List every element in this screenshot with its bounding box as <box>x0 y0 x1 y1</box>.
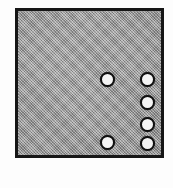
hole-4 <box>140 117 155 132</box>
hole-1 <box>100 72 115 87</box>
hole-5 <box>140 136 155 151</box>
hole-2 <box>140 72 155 87</box>
hole-3 <box>140 95 155 110</box>
hole-6 <box>100 135 115 150</box>
figure-canvas <box>0 0 173 188</box>
